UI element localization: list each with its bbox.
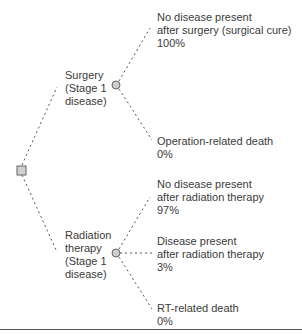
branch-rt-cure <box>119 197 150 249</box>
outcome-line: after radiation therapy <box>157 191 264 204</box>
outcome-line: No disease present <box>157 178 264 191</box>
strategy-label-line: (Stage 1 <box>65 82 107 95</box>
branch-rt-death <box>119 257 152 309</box>
branch-decision-to-radiation <box>22 175 57 252</box>
outcome-rt-death: RT-related death 0% <box>157 302 239 328</box>
strategy-label-line: Surgery <box>65 69 107 82</box>
outcome-probability: 0% <box>157 315 239 328</box>
outcome-rt-disease: Disease present after radiation therapy … <box>157 235 264 274</box>
bottom-divider <box>0 329 302 330</box>
outcome-line: No disease present <box>157 11 292 24</box>
strategy-label-line: disease) <box>65 95 107 108</box>
outcome-line: after radiation therapy <box>157 248 264 261</box>
outcome-surgery-death: Operation-related death 0% <box>157 135 273 161</box>
strategy-label-line: Radiation <box>65 229 111 242</box>
outcome-surgery-cure: No disease present after surgery (surgic… <box>157 11 292 50</box>
outcome-rt-cure: No disease present after radiation thera… <box>157 178 264 217</box>
outcome-line: RT-related death <box>157 302 239 315</box>
strategy-label-line: disease) <box>65 268 111 281</box>
chance-node-radiation <box>112 249 120 257</box>
outcome-line: after surgery (surgical cure) <box>157 24 292 37</box>
outcome-probability: 3% <box>157 261 264 274</box>
outcome-probability: 97% <box>157 204 264 217</box>
outcome-probability: 100% <box>157 37 292 50</box>
branch-surgery-death <box>119 89 152 140</box>
decision-node-square <box>17 166 26 175</box>
outcome-line: Disease present <box>157 235 264 248</box>
branch-surgery-cure <box>119 28 150 81</box>
decision-tree-lines <box>0 0 302 334</box>
branch-decision-to-surgery <box>22 87 57 165</box>
strategy-label-line: (Stage 1 <box>65 255 111 268</box>
strategy-label-surgery: Surgery (Stage 1 disease) <box>65 69 107 108</box>
strategy-label-radiation: Radiation therapy (Stage 1 disease) <box>65 229 111 281</box>
strategy-label-line: therapy <box>65 242 111 255</box>
outcome-line: Operation-related death <box>157 135 273 148</box>
outcome-probability: 0% <box>157 148 273 161</box>
chance-node-surgery <box>112 81 120 89</box>
